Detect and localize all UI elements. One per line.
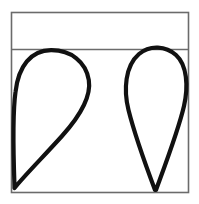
left-teardrop bbox=[14, 50, 90, 188]
right-teardrop bbox=[126, 48, 186, 190]
figure-canvas bbox=[0, 0, 199, 204]
outer-rectangle bbox=[12, 13, 189, 193]
figure-root bbox=[0, 0, 199, 204]
